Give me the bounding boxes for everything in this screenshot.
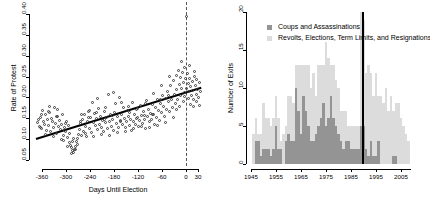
scatter-point <box>36 121 39 124</box>
scatter-point <box>43 123 46 126</box>
scatter-point <box>97 107 100 110</box>
scatter-point <box>124 126 127 129</box>
scatter-y-axis-title: Rate of Protest <box>10 65 17 112</box>
scatter-point <box>136 107 139 110</box>
scatter-point <box>148 126 151 129</box>
bar-x-tick-label: 1945 <box>244 174 258 180</box>
scatter-point <box>45 129 48 132</box>
scatter-point <box>143 118 146 121</box>
scatter-y-tick <box>26 139 29 140</box>
scatter-point <box>58 119 61 122</box>
scatter-point <box>170 98 173 101</box>
scatter-point <box>66 136 69 139</box>
scatter-point <box>41 109 44 112</box>
scatter-point <box>159 98 162 101</box>
scatter-point <box>180 60 183 63</box>
scatter-panel: Rate of Protest Days Until Election 0.05… <box>0 0 215 223</box>
scatter-point <box>114 102 117 105</box>
scatter-point <box>40 113 43 116</box>
scatter-point <box>90 131 93 134</box>
scatter-point <box>96 97 99 100</box>
scatter-point <box>178 105 181 108</box>
scatter-point <box>52 135 55 138</box>
scatter-point <box>119 120 122 123</box>
bar-y-axis-title: Number of Exits <box>227 63 234 113</box>
scatter-point <box>70 152 73 155</box>
scatter-point <box>143 114 146 117</box>
bar-y-tick <box>243 12 246 13</box>
scatter-point <box>116 131 119 134</box>
bar-y-tick <box>243 50 246 51</box>
scatter-point <box>187 97 190 100</box>
scatter-point <box>74 148 77 151</box>
scatter-point <box>48 105 51 108</box>
scatter-point <box>188 64 191 67</box>
scatter-point <box>52 126 55 129</box>
bar-x-tick <box>301 169 302 172</box>
bar-x-tick-label: 1985 <box>344 174 358 180</box>
bar-y-axis-line <box>246 12 247 164</box>
scatter-point <box>132 127 135 130</box>
scatter-point <box>120 101 123 104</box>
scatter-point <box>187 82 190 85</box>
bar-x-tick <box>276 169 277 172</box>
scatter-y-tick <box>26 14 29 15</box>
scatter-point <box>159 102 162 105</box>
scatter-point <box>199 90 202 93</box>
scatter-point <box>172 116 175 119</box>
bar-y-tick <box>243 88 246 89</box>
bar-x-tick-label: 1995 <box>369 174 383 180</box>
scatter-point <box>144 102 147 105</box>
scatter-point <box>85 135 88 138</box>
scatter-x-tick-label: -300 <box>60 174 72 180</box>
scatter-plot-area <box>34 12 202 164</box>
scatter-point <box>187 90 190 93</box>
scatter-point <box>46 118 49 121</box>
scatter-point <box>175 88 178 91</box>
bar-2008 <box>407 141 409 164</box>
scatter-point <box>80 134 83 137</box>
scatter-point <box>140 125 143 128</box>
scatter-point <box>100 126 103 129</box>
scatter-point <box>99 115 102 118</box>
scatter-point <box>88 127 91 130</box>
scatter-point <box>78 128 81 131</box>
scatter-point <box>55 132 58 135</box>
scatter-point <box>55 115 58 118</box>
legend-swatch-coups <box>267 25 272 30</box>
scatter-point <box>110 125 113 128</box>
scatter-point <box>160 84 163 87</box>
scatter-point <box>151 113 154 116</box>
bar-x-tick <box>326 169 327 172</box>
scatter-point <box>44 113 47 116</box>
scatter-point <box>104 121 107 124</box>
scatter-point <box>144 127 147 130</box>
bar-y-tick <box>243 126 246 127</box>
bar-y-tick <box>243 164 246 165</box>
scatter-x-tick-label: -60 <box>158 174 167 180</box>
scatter-point <box>191 89 194 92</box>
scatter-x-tick-label: -180 <box>108 174 120 180</box>
scatter-point <box>118 96 121 99</box>
scatter-point <box>142 110 145 113</box>
bar-x-tick <box>376 169 377 172</box>
scatter-point <box>191 80 194 83</box>
scatter-x-tick <box>162 169 163 172</box>
scatter-point <box>194 84 197 87</box>
scatter-point <box>66 145 69 148</box>
scatter-point <box>67 124 70 127</box>
scatter-point <box>61 113 64 116</box>
scatter-x-tick-label: -240 <box>84 174 96 180</box>
scatter-x-axis-title: Days Until Election <box>89 186 148 193</box>
scatter-point <box>186 72 189 75</box>
legend-swatch-revolts <box>267 36 272 41</box>
scatter-point <box>164 121 167 124</box>
scatter-point <box>195 100 198 103</box>
scatter-point <box>128 124 131 127</box>
scatter-point <box>104 106 107 109</box>
scatter-point <box>198 104 201 107</box>
scatter-point <box>76 143 79 146</box>
scatter-point <box>88 109 91 112</box>
scatter-point <box>116 115 119 118</box>
scatter-point <box>125 120 128 123</box>
